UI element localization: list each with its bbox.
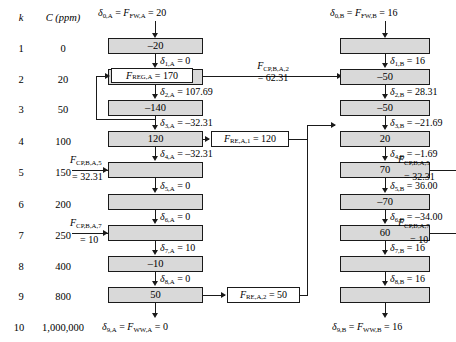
recycle-a-bottom-segment xyxy=(96,119,155,120)
table-row: 100 xyxy=(32,136,94,147)
diagram-canvas: k C (ppm) 1 0 2 20 3 50 4 100 5 150 6 20… xyxy=(0,0,456,342)
table-row: 5 xyxy=(12,167,30,178)
column-a-inlet-label: δ0,A = FFW,A = 20 xyxy=(98,8,166,19)
column-b-outlet-arrow-icon xyxy=(382,313,388,318)
column-a-arrow-6-icon xyxy=(152,219,158,224)
column-b-arrow-5-icon xyxy=(382,188,388,193)
table-row: 2 xyxy=(12,74,30,85)
column-b-delta-1-label: δ1,B = 16 xyxy=(390,56,425,67)
column-a-arrow-7-icon xyxy=(152,250,158,255)
column-a-stage-8-box[interactable]: –10 xyxy=(108,256,203,272)
column-b-arrow-7-icon xyxy=(382,250,388,255)
column-a-delta-6-label: δ6,A = 0 xyxy=(160,212,190,223)
column-a-stage-5-box[interactable] xyxy=(108,162,203,178)
table-row: 7 xyxy=(12,230,30,241)
column-b-arrow-4-icon xyxy=(382,156,388,161)
column-a-delta-2-label: δ2,A = 107.69 xyxy=(160,87,213,98)
flow-reg-a-box[interactable]: FREG,A = 170 xyxy=(111,68,193,83)
table-row: 3 xyxy=(12,104,30,115)
column-b-outlet-label: δ9,B = FWW,B = 16 xyxy=(332,322,402,333)
column-b-delta-3-label: δ3,B = –21.69 xyxy=(390,118,442,129)
column-a-delta-7-label: δ7,A = 10 xyxy=(160,243,195,254)
column-a-delta-1-label: δ1,A = 0 xyxy=(160,56,190,67)
table-row: 10 xyxy=(8,322,30,333)
column-a-stage-4-box[interactable]: 120 xyxy=(108,131,203,147)
flow-cp-ba5-right-label-top: FCP,B,A,5 xyxy=(398,155,430,166)
flow-re-a1-to-b-arrow-icon xyxy=(331,122,336,128)
column-b-arrow-6-icon xyxy=(382,219,388,224)
flow-cp-ba7-right-label-top: FCP,B,A,7 xyxy=(398,218,430,229)
table-row: 4 xyxy=(12,136,30,147)
flow-cp-ba5-left-label-value: = 32.31 xyxy=(72,172,103,183)
flow-cp-ba2-label: FCP,B,A,2 = 62.31 xyxy=(215,60,331,83)
table-header-k: k xyxy=(12,12,30,23)
table-row: 50 xyxy=(32,104,94,115)
flow-re-a2-riser xyxy=(307,125,308,296)
flow-cp-ba7-left-arrow-icon xyxy=(103,230,108,236)
column-a-arrow-3-icon xyxy=(152,125,158,130)
column-a-outlet-label: δ9,A = FWW,A = 0 xyxy=(102,322,168,333)
recycle-a-arrow-icon xyxy=(105,73,110,79)
column-b-inlet-label: δ0,B = FFW,B = 16 xyxy=(330,8,398,19)
flow-cp-ba5-left-arrow-icon xyxy=(103,167,108,173)
column-a-stage-9-box[interactable]: 50 xyxy=(108,287,203,303)
recycle-a-vertical-segment xyxy=(96,76,97,120)
flow-cp-ba5-right-label-value: = 32.31 xyxy=(404,172,435,183)
column-b-stage-8-box[interactable] xyxy=(340,256,430,272)
flow-re-a2-box[interactable]: FRE,A,2 = 50 xyxy=(227,287,300,303)
column-b-stage-4-box[interactable]: 20 xyxy=(340,131,430,147)
table-row: 1,000,000 xyxy=(32,322,94,333)
column-a-outlet-arrow-icon xyxy=(152,313,158,318)
column-a-delta-3-label: δ3,A = –32.31 xyxy=(160,118,213,129)
flow-cp-ba7-left-label-top: FCP,B,A,7 xyxy=(70,218,102,229)
column-a-arrow-2-icon xyxy=(152,94,158,99)
column-a-delta-8-label: δ8,A = 0 xyxy=(160,274,190,285)
column-a-stage-7-box[interactable] xyxy=(108,225,203,241)
table-row: 0 xyxy=(32,43,94,54)
table-row: 1 xyxy=(12,43,30,54)
column-b-arrow-2-icon xyxy=(382,94,388,99)
table-header-c: C (ppm) xyxy=(32,12,94,23)
column-b-arrow-3-icon xyxy=(382,125,388,130)
flow-re-a1-box[interactable]: FRE,A,1 = 120 xyxy=(211,131,289,147)
column-a-stage-6-box[interactable] xyxy=(108,194,203,210)
column-a-stage-3-box[interactable]: –140 xyxy=(108,100,203,116)
column-a-arrow-8-icon xyxy=(152,281,158,286)
column-b-delta-2-label: δ2,B = 28.31 xyxy=(390,87,437,98)
table-row: 9 xyxy=(12,291,30,302)
column-a-delta-4-label: δ4,A = –32.31 xyxy=(160,149,213,160)
column-b-stage-3-box[interactable]: –50 xyxy=(340,100,430,116)
column-a-stage-1-box[interactable]: –20 xyxy=(108,38,203,54)
column-b-stage-9-box[interactable] xyxy=(340,287,430,303)
table-row: 8 xyxy=(12,261,30,272)
table-row: 800 xyxy=(32,291,94,302)
column-b-arrow-8-icon xyxy=(382,281,388,286)
flow-re-a1-in-arrow-icon xyxy=(205,136,210,142)
column-b-delta-5-label: δ5,B = 36.00 xyxy=(390,181,437,192)
column-a-arrow-4-icon xyxy=(152,156,158,161)
column-a-arrow-1-icon xyxy=(152,63,158,68)
column-b-stage-6-box[interactable]: –70 xyxy=(340,194,430,210)
column-a-delta-5-label: δ5,A = 0 xyxy=(160,181,190,192)
column-b-stage-2-box[interactable]: –50 xyxy=(340,69,430,85)
flow-re-a2-in-arrow-icon xyxy=(221,292,226,298)
flow-re-a1-out-line xyxy=(289,139,308,140)
flow-cp-ba5-left-label-top: FCP,B,A,5 xyxy=(70,155,102,166)
flow-cp-ba7-left-label-value: = 10 xyxy=(80,235,98,246)
table-row: 200 xyxy=(32,199,94,210)
flow-cp-ba7-right-label-value: = 10 xyxy=(410,235,428,246)
table-row: 6 xyxy=(12,199,30,210)
table-row: 400 xyxy=(32,261,94,272)
column-b-stage-1-box[interactable] xyxy=(340,38,430,54)
table-row: 20 xyxy=(32,74,94,85)
column-b-delta-8-label: δ8,B = 16 xyxy=(390,274,425,285)
column-a-arrow-5-icon xyxy=(152,188,158,193)
flow-cp-ba7-right-line xyxy=(430,233,456,234)
column-b-arrow-1-icon xyxy=(382,63,388,68)
